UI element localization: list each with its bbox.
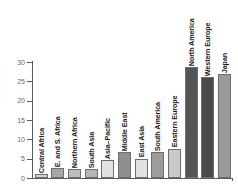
y-axis-tick-label: 30	[17, 59, 25, 66]
bar-category-label: South Asia	[87, 131, 94, 167]
bar-category-label: Central Africa	[38, 128, 45, 173]
bar: Eastern Europe	[168, 149, 181, 178]
bar-slot: Central Africa	[33, 61, 50, 178]
left-edge-artifact	[2, 62, 4, 102]
bar: Western Europe	[201, 77, 214, 178]
bar: South America	[151, 152, 164, 178]
y-axis-tick-label: 10	[17, 136, 25, 143]
bar-category-label: South America	[154, 102, 161, 151]
bar-category-label: E. and S. Africa	[54, 116, 61, 167]
y-axis-tick-label: 25	[17, 78, 25, 85]
y-axis-tick	[27, 178, 33, 179]
bar-category-label: Northern Africa	[71, 117, 78, 168]
bar-category-label: Middle East	[121, 112, 128, 151]
bar: Northern Africa	[68, 169, 81, 178]
bar: Asia–Pacific	[101, 160, 114, 178]
bar: Middle East	[118, 152, 131, 178]
bar-chart: 051015202530 Central AfricaE. and S. Afr…	[0, 0, 238, 194]
bar-slot: Asia–Pacific	[100, 61, 117, 178]
bar-slot: South America	[150, 61, 167, 178]
bar-slot: East Asia	[133, 61, 150, 178]
bar-slot: Japan	[216, 61, 233, 178]
bar: South Asia	[85, 169, 98, 178]
bar-slot: Eastern Europe	[166, 61, 183, 178]
x-axis-line	[32, 178, 233, 179]
bar-category-label: East Asia	[137, 126, 144, 157]
bar-category-label: North America	[187, 18, 194, 66]
bar: E. and S. Africa	[51, 168, 64, 178]
bar: East Asia	[135, 159, 148, 178]
bar: Central Africa	[35, 174, 48, 178]
y-axis-tick-label: 5	[21, 155, 25, 162]
bar-slot: North America	[183, 61, 200, 178]
bar-category-label: Asia–Pacific	[104, 118, 111, 159]
bar-slot: E. and S. Africa	[50, 61, 67, 178]
y-axis-tick-label: 0	[21, 175, 25, 182]
bar: North America	[185, 67, 198, 178]
bar-category-label: Eastern Europe	[171, 96, 178, 148]
y-axis-tick-label: 20	[17, 97, 25, 104]
bar-slot: Middle East	[116, 61, 133, 178]
bar-category-label: Western Europe	[204, 22, 211, 76]
bar-series: Central AfricaE. and S. AfricaNorthern A…	[33, 61, 233, 178]
bar-slot: Western Europe	[200, 61, 217, 178]
bar: Japan	[218, 74, 231, 178]
bar-category-label: Japan	[221, 53, 228, 73]
bar-slot: South Asia	[83, 61, 100, 178]
bar-slot: Northern Africa	[66, 61, 83, 178]
x-axis-end-tick	[232, 178, 233, 181]
y-axis-tick-label: 15	[17, 117, 25, 124]
